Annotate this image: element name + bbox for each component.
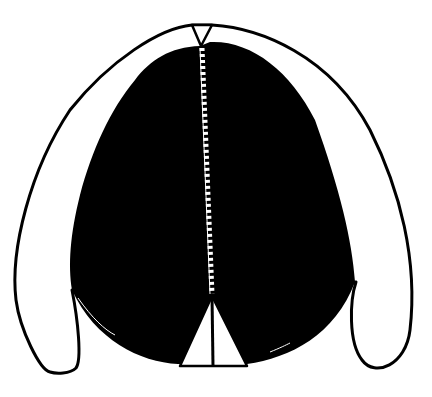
figure-canvas	[0, 0, 432, 397]
bottom-triangle-divider	[212, 296, 213, 366]
